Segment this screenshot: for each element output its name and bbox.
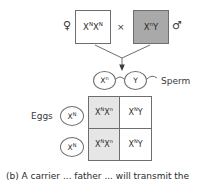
- male-parent-genotype-box: XnY: [133, 10, 169, 44]
- punnett-cell-row2-col1: XNXn: [89, 129, 120, 161]
- egg-gamete-1: XN: [60, 106, 84, 126]
- punnett-square-diagram: ♀ XNXN × XnY ♂ Xn Y Sperm Eggs XN XN: [0, 0, 207, 182]
- egg-gamete-1-label: XN: [68, 112, 77, 121]
- punnett-cell-row1-col2-genotype: XNY: [128, 108, 142, 117]
- punnett-cell-row1-col1-genotype: XNXn: [95, 108, 113, 117]
- female-parent-genotype: XNXN: [83, 22, 103, 32]
- sperm-gamete-y: Y: [124, 71, 147, 90]
- female-sex-symbol: ♀: [63, 20, 71, 31]
- eggs-label: Eggs: [31, 111, 53, 121]
- sperm-label: Sperm: [161, 76, 190, 86]
- sperm-gamete-2-label: Y: [133, 76, 138, 85]
- punnett-cell-row1-col1: XNXn: [89, 97, 120, 129]
- egg-gamete-2: XN: [60, 137, 84, 157]
- cross-symbol: ×: [117, 22, 125, 32]
- sperm-gamete-1-label: Xn: [100, 76, 108, 85]
- male-parent-genotype: XnY: [144, 22, 159, 32]
- female-parent-genotype-box: XNXN: [75, 10, 111, 44]
- male-sex-symbol: ♂: [172, 20, 182, 31]
- figure-caption: (b) A carrier ... father ... will transm…: [6, 171, 206, 181]
- punnett-cell-row2-col2-genotype: XNY: [128, 140, 142, 149]
- punnett-cell-row2-col2: XNY: [120, 129, 151, 161]
- punnett-cell-row1-col2: XNY: [120, 97, 151, 129]
- punnett-square-grid: XNXn XNY XNXn XNY: [88, 96, 152, 161]
- sperm-gamete-x-n: Xn: [93, 71, 116, 90]
- punnett-cell-row2-col1-genotype: XNXn: [95, 140, 113, 149]
- egg-gamete-2-label: XN: [68, 143, 77, 152]
